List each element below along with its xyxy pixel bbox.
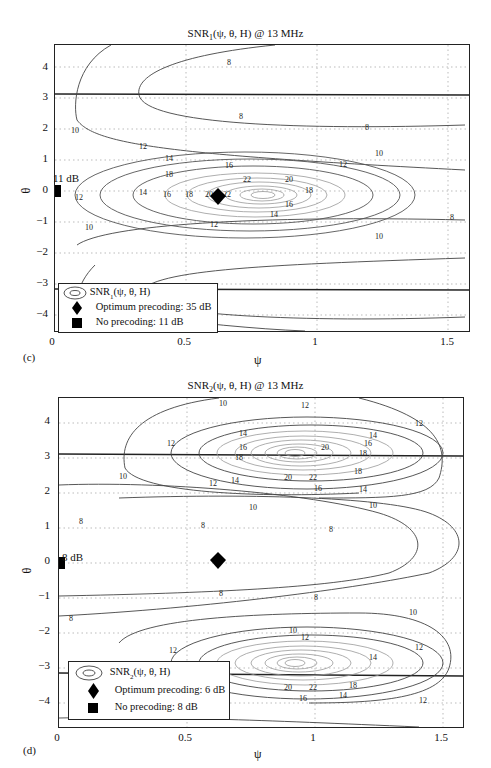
- xtick-c: 1: [300, 335, 330, 347]
- svg-text:8: 8: [219, 589, 223, 598]
- legend-text: Optimum precoding: 6 dB: [115, 684, 226, 695]
- ytick-c: −4: [28, 307, 48, 319]
- svg-text:12: 12: [301, 401, 309, 410]
- svg-text:10: 10: [71, 126, 79, 135]
- svg-text:18: 18: [359, 449, 367, 458]
- ytick-c: −1: [28, 214, 48, 226]
- legend-entry-no-precoding: No precoding: 8 dB: [69, 701, 198, 714]
- xlabel-c: ψ: [254, 353, 262, 368]
- svg-text:10: 10: [375, 149, 383, 158]
- svg-text:18: 18: [305, 186, 313, 195]
- xtick-d: 0: [42, 731, 72, 743]
- svg-text:12: 12: [419, 696, 427, 705]
- legend-text: Optimum precoding: 35 dB: [96, 301, 212, 312]
- svg-text:8: 8: [79, 517, 83, 526]
- svg-text:10: 10: [409, 608, 417, 617]
- legend-text: No precoding: 8 dB: [115, 701, 198, 712]
- xtick-c: 0.5: [169, 335, 199, 347]
- xtick-d: 1.5: [426, 731, 456, 743]
- svg-text:22: 22: [243, 175, 251, 184]
- legend-d: SNR2(ψ, θ, H) Optimum precoding: 6 dB No…: [68, 661, 230, 720]
- ytick-c: −3: [28, 276, 48, 288]
- ytick-c: 3: [28, 90, 48, 102]
- ytick-d: −1: [30, 589, 50, 601]
- ytick-c: 4: [28, 60, 48, 72]
- ylabel-d: θ: [20, 568, 35, 574]
- svg-text:16: 16: [314, 484, 322, 493]
- svg-text:8: 8: [314, 593, 318, 602]
- svg-text:18: 18: [354, 467, 362, 476]
- svg-text:14: 14: [369, 653, 377, 662]
- contour-legend-icon: [75, 665, 103, 681]
- square-icon: [71, 317, 83, 329]
- svg-text:16: 16: [364, 439, 372, 448]
- ytick-d: −2: [30, 624, 50, 636]
- svg-text:12: 12: [415, 419, 423, 428]
- svg-text:12: 12: [167, 439, 175, 448]
- ytick-d: −4: [30, 694, 50, 706]
- legend-text: (ψ, θ, H): [114, 286, 151, 297]
- svg-text:8: 8: [365, 123, 369, 132]
- legend-entry-optimum: Optimum precoding: 35 dB: [59, 301, 211, 315]
- svg-text:22: 22: [309, 473, 317, 482]
- panel-label-c: (c): [23, 351, 35, 363]
- svg-text:10: 10: [119, 472, 127, 481]
- title-rest: (ψ, θ, H) @ 13 MHz: [213, 379, 303, 391]
- svg-text:14: 14: [339, 691, 347, 700]
- chart-c-title: SNR1(ψ, θ, H) @ 13 MHz: [0, 27, 491, 42]
- title-main: SNR: [188, 379, 209, 391]
- chart-d-title: SNR2(ψ, θ, H) @ 13 MHz: [0, 379, 491, 394]
- ytick-d: 0: [30, 554, 50, 566]
- svg-text:12: 12: [75, 193, 83, 202]
- svg-text:18: 18: [185, 190, 193, 199]
- svg-text:18: 18: [349, 681, 357, 690]
- title-rest: (ψ, θ, H) @ 13 MHz: [213, 27, 303, 39]
- legend-entry-optimum: Optimum precoding: 6 dB: [69, 683, 225, 699]
- no-precoding-label-d: 8 dB: [62, 551, 83, 563]
- legend-entry-contour: SNR1(ψ, θ, H): [59, 286, 150, 301]
- svg-text:10: 10: [289, 626, 297, 635]
- svg-text:10: 10: [369, 501, 377, 510]
- ylabel-c: θ: [19, 188, 34, 194]
- legend-c: SNR1(ψ, θ, H) Optimum precoding: 35 dB N…: [58, 283, 218, 333]
- svg-text:20: 20: [321, 443, 329, 452]
- svg-text:16: 16: [299, 694, 307, 703]
- ytick-d: 1: [30, 519, 50, 531]
- ytick-d: −3: [30, 659, 50, 671]
- xlabel-d: ψ: [254, 747, 262, 762]
- svg-text:16: 16: [285, 200, 293, 209]
- svg-text:10: 10: [249, 503, 257, 512]
- no-precoding-label-c: 11 dB: [53, 172, 79, 184]
- legend-entry-no-precoding: No precoding: 11 dB: [59, 316, 184, 329]
- svg-text:12: 12: [209, 479, 217, 488]
- ytick-d: 2: [30, 484, 50, 496]
- ytick-c: 2: [28, 121, 48, 133]
- xtick-c: 0: [37, 335, 67, 347]
- svg-text:16: 16: [225, 161, 233, 170]
- svg-text:18: 18: [165, 170, 173, 179]
- title-main: SNR: [188, 27, 209, 39]
- svg-text:8: 8: [239, 112, 243, 121]
- svg-text:12: 12: [301, 633, 309, 642]
- svg-text:12: 12: [415, 643, 423, 652]
- svg-text:14: 14: [359, 485, 367, 494]
- svg-text:10: 10: [375, 232, 383, 241]
- ytick-d: 4: [30, 414, 50, 426]
- legend-text: No precoding: 11 dB: [96, 316, 184, 327]
- svg-text:8: 8: [69, 614, 73, 623]
- svg-text:8: 8: [201, 521, 205, 530]
- xtick-c: 1.5: [432, 335, 462, 347]
- svg-text:14: 14: [231, 476, 239, 485]
- legend-entry-contour: SNR2(ψ, θ, H): [69, 665, 170, 681]
- optimum-marker-d: [210, 552, 226, 569]
- legend-text: SNR: [90, 286, 110, 297]
- no-precoding-marker-c: [55, 185, 61, 197]
- contour-legend-icon: [63, 286, 87, 300]
- svg-text:14: 14: [270, 210, 278, 219]
- svg-text:8: 8: [329, 525, 333, 534]
- svg-text:12: 12: [139, 142, 147, 151]
- svg-text:16: 16: [239, 443, 247, 452]
- svg-text:8: 8: [450, 213, 454, 222]
- svg-text:22: 22: [309, 683, 317, 692]
- svg-text:16: 16: [163, 190, 171, 199]
